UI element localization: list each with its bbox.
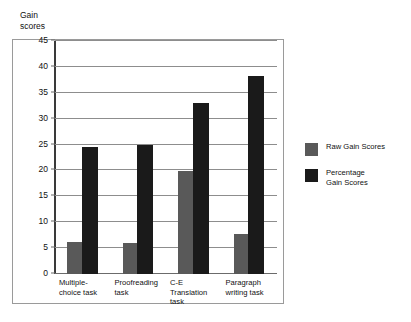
bar xyxy=(137,145,153,274)
x-axis-category-labels: Multiple- choice taskProofreading taskC-… xyxy=(55,274,277,303)
y-tick-label: 5 xyxy=(43,242,48,252)
y-tick-label: 30 xyxy=(39,113,48,123)
y-tick-label: 20 xyxy=(39,164,48,174)
plot-area: 454035302520151050 xyxy=(55,41,277,274)
plot-frame: 454035302520151050 Multiple- choice task… xyxy=(12,39,284,304)
bar-group xyxy=(111,41,167,274)
bar xyxy=(82,147,98,274)
x-axis-category-label: Paragraph writing task xyxy=(222,274,278,303)
legend-item: Raw Gain Scores xyxy=(305,142,405,156)
legend-swatch xyxy=(305,169,318,182)
chart-legend: Raw Gain ScoresPercentage Gain Scores xyxy=(305,142,405,199)
y-tick-label: 0 xyxy=(43,268,48,278)
legend-item: Percentage Gain Scores xyxy=(305,168,405,187)
y-tick-label: 35 xyxy=(39,87,48,97)
y-axis-title: Gain scores xyxy=(20,10,45,32)
bar xyxy=(248,76,264,274)
y-tick-label: 15 xyxy=(39,190,48,200)
y-tick-label: 25 xyxy=(39,139,48,149)
bar-chart: Gain scores 454035302520151050 Multiple-… xyxy=(0,0,411,322)
bar-group xyxy=(55,41,111,274)
legend-swatch xyxy=(305,143,318,156)
x-axis-category-label: C-E Translation task xyxy=(166,274,222,303)
y-tick-label: 10 xyxy=(39,216,48,226)
bar xyxy=(193,103,209,274)
bar-group xyxy=(166,41,222,274)
legend-label: Raw Gain Scores xyxy=(326,142,385,152)
bar-group xyxy=(222,41,278,274)
x-axis-category-label: Multiple- choice task xyxy=(55,274,111,303)
y-tick-label: 40 xyxy=(39,61,48,71)
x-axis-category-label: Proofreading task xyxy=(111,274,167,303)
legend-label: Percentage Gain Scores xyxy=(326,168,368,187)
bar-groups xyxy=(55,41,277,274)
y-tick-label: 45 xyxy=(39,35,48,45)
